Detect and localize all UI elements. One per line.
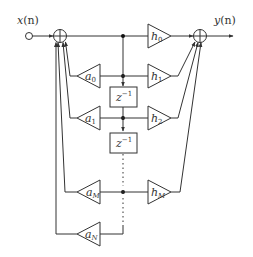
input-node — [26, 33, 54, 40]
delay-block-1: z−1 — [110, 87, 137, 107]
input-label: x(n) — [17, 14, 39, 27]
gain-a1: a1 — [77, 106, 100, 130]
gain-h1: h1 — [148, 64, 171, 88]
iir-filter-diagram: x(n) h0 y(n) a0 h1 z−1 — [0, 0, 253, 257]
delay-block-2: z−1 — [110, 133, 137, 153]
output-label: y(n) — [213, 14, 236, 27]
output-adder-icon — [194, 30, 207, 43]
gain-h0: h0 — [148, 24, 171, 48]
gain-h2: h2 — [148, 106, 171, 130]
input-adder-icon — [54, 30, 67, 43]
gain-hM: hM — [148, 180, 171, 204]
gain-aN: aN — [77, 222, 100, 246]
gain-aM: aM — [77, 180, 101, 204]
gain-a0: a0 — [77, 64, 100, 88]
